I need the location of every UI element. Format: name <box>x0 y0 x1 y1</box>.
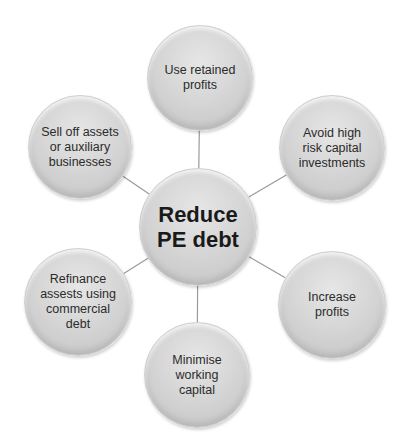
node-bottom-right: Increase profits <box>278 251 386 359</box>
node-label: Use retained profits <box>155 63 246 93</box>
node-top-left: Sell off assets or auxiliary businesses <box>28 95 132 199</box>
node-bottom: Minimise working capital <box>144 322 250 428</box>
connector-line-top-left <box>123 176 149 194</box>
connector-line-bottom-right <box>249 257 285 278</box>
node-label: Sell off assets or auxiliary businesses <box>31 125 129 170</box>
center-node-label: Reduce PE debt <box>157 202 239 252</box>
node-label: Avoid high risk capital investments <box>289 126 376 171</box>
node-label: Refinance assests using commercial debt <box>30 272 126 332</box>
node-label: Minimise working capital <box>162 353 231 398</box>
hub-spoke-diagram: Use retained profits Avoid high risk cap… <box>0 0 395 444</box>
connector-line-top-right <box>249 175 286 197</box>
connector-line-top <box>199 131 200 168</box>
node-bottom-left: Refinance assests using commercial debt <box>24 248 132 356</box>
center-node: Reduce PE debt <box>139 168 257 286</box>
node-top-right: Avoid high risk capital investments <box>279 95 385 201</box>
node-top: Use retained profits <box>147 25 253 131</box>
node-label: Increase profits <box>298 290 366 320</box>
connector-line-bottom-left <box>124 258 148 273</box>
